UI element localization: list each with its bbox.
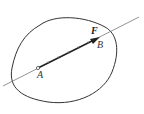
label-a: A <box>36 69 44 80</box>
force-vector <box>38 40 94 68</box>
label-force: F <box>90 25 98 36</box>
point-b-marker <box>92 40 95 43</box>
diagram-canvas: A B F <box>0 0 144 114</box>
rigid-body-outline <box>11 18 116 103</box>
label-b: B <box>97 39 103 50</box>
